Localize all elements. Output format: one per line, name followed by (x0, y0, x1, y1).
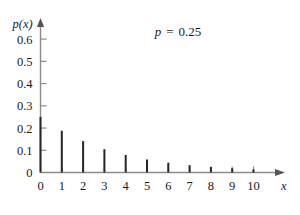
x-axis-ticks: 012345678910 (37, 167, 259, 193)
geometric-distribution-figure: 00.10.20.30.40.50.6012345678910p(x)xp=0.… (0, 0, 300, 215)
x-axis-arrowhead (275, 169, 285, 176)
x-tick-label: 1 (59, 179, 65, 193)
y-axis-ticks: 00.10.20.30.40.50.6 (17, 33, 47, 180)
data-bars-group (41, 117, 254, 173)
axes-group (37, 18, 285, 176)
x-tick-label: 4 (123, 179, 130, 193)
x-axis-name: x (280, 179, 287, 193)
title-parameter-value: 0.25 (179, 24, 202, 39)
y-axis-arrowhead (37, 18, 44, 27)
x-tick-label: 3 (101, 179, 107, 193)
x-tick-label: 5 (144, 179, 150, 193)
x-tick-label: 2 (80, 179, 86, 193)
impulse-plot: 00.10.20.30.40.50.6012345678910p(x)xp=0.… (0, 0, 300, 215)
y-tick-label: 0.3 (17, 99, 33, 113)
x-tick-label: 10 (247, 179, 260, 193)
plot-title: p=0.25 (154, 24, 202, 39)
y-axis-name: p(x) (12, 17, 33, 31)
y-tick-label: 0.2 (17, 122, 33, 136)
x-tick-label: 7 (186, 179, 192, 193)
y-tick-label: 0 (26, 166, 32, 180)
x-tick-label: 0 (37, 179, 43, 193)
x-tick-label: 6 (165, 179, 171, 193)
y-tick-label: 0.4 (17, 77, 33, 91)
y-tick-label: 0.1 (17, 144, 33, 158)
x-tick-label: 8 (208, 179, 214, 193)
y-tick-label: 0.6 (17, 33, 33, 47)
y-tick-label: 0.5 (17, 55, 33, 69)
title-relation: = (166, 24, 173, 39)
x-tick-label: 9 (229, 179, 235, 193)
title-parameter-symbol: p (154, 24, 162, 39)
